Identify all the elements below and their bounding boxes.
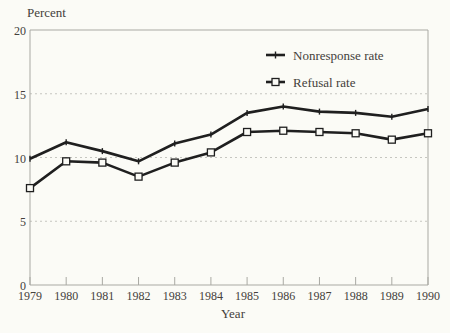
x-axis-tick-label: 1986 bbox=[271, 289, 295, 303]
refusal-square-marker-icon bbox=[272, 79, 279, 86]
data-point-square-marker bbox=[27, 185, 34, 192]
data-point-square-marker bbox=[280, 127, 287, 134]
legend-item-nonresponse: Nonresponse rate bbox=[266, 48, 384, 63]
y-axis-tick-label: 5 bbox=[20, 215, 26, 229]
x-axis-tick-label: 1988 bbox=[344, 289, 368, 303]
x-axis-tick-label: 1989 bbox=[380, 289, 404, 303]
x-axis-tick-label: 1985 bbox=[235, 289, 259, 303]
x-axis-tick-label: 1990 bbox=[416, 289, 440, 303]
legend-label-refusal: Refusal rate bbox=[293, 75, 356, 90]
x-axis-tick-label: 1984 bbox=[199, 289, 223, 303]
y-axis-tick-labels: 05101520 bbox=[14, 24, 26, 293]
y-axis-tick-label: 20 bbox=[14, 24, 26, 38]
x-axis-tick-labels: 1979198019811982198319841985198619871988… bbox=[18, 289, 440, 303]
legend-item-refusal: Refusal rate bbox=[266, 75, 356, 90]
line-chart: Percent 05101520 19791980198119821983198… bbox=[0, 0, 450, 333]
data-point-square-marker bbox=[388, 136, 395, 143]
x-axis-tick-label: 1979 bbox=[18, 289, 42, 303]
x-axis-tick-label: 1982 bbox=[127, 289, 151, 303]
data-point-square-marker bbox=[207, 149, 214, 156]
x-axis-title: Year bbox=[221, 306, 246, 321]
series-line bbox=[30, 131, 428, 188]
legend-label-nonresponse: Nonresponse rate bbox=[293, 48, 384, 63]
series-lines bbox=[27, 104, 432, 192]
data-point-square-marker bbox=[63, 158, 70, 165]
gridlines bbox=[30, 94, 428, 222]
series-nonresponse bbox=[30, 104, 428, 165]
x-axis-ticks bbox=[30, 277, 428, 285]
series-line bbox=[30, 107, 428, 162]
data-point-square-marker bbox=[316, 129, 323, 136]
y-axis-tick-label: 15 bbox=[14, 88, 26, 102]
data-point-square-marker bbox=[244, 129, 251, 136]
data-point-square-marker bbox=[135, 173, 142, 180]
data-point-square-marker bbox=[352, 130, 359, 137]
data-point-square-marker bbox=[425, 130, 432, 137]
x-axis-tick-label: 1980 bbox=[54, 289, 78, 303]
data-point-square-marker bbox=[171, 159, 178, 166]
data-point-square-marker bbox=[99, 159, 106, 166]
plot-frame bbox=[30, 30, 428, 285]
x-axis-tick-label: 1981 bbox=[90, 289, 114, 303]
x-axis-tick-label: 1987 bbox=[307, 289, 331, 303]
legend: Nonresponse rate Refusal rate bbox=[266, 48, 384, 90]
y-axis-title: Percent bbox=[27, 5, 66, 20]
y-axis-tick-label: 10 bbox=[14, 152, 26, 166]
x-axis-tick-label: 1983 bbox=[163, 289, 187, 303]
series-refusal bbox=[27, 127, 432, 191]
